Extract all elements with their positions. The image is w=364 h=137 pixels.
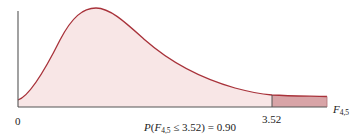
probability-annotation: P(F4,5 ≤ 3.52) = 0.90 bbox=[144, 122, 236, 135]
x-axis-label: F4,5 bbox=[333, 104, 349, 117]
x-tick-origin: 0 bbox=[15, 116, 21, 127]
x-tick-critical-value: 3.52 bbox=[262, 114, 281, 125]
prob-p: P bbox=[144, 121, 151, 133]
f-distribution-chart bbox=[0, 0, 364, 137]
prob-subscript: 4,5 bbox=[161, 126, 170, 135]
x-axis-subscript: 4,5 bbox=[340, 108, 349, 117]
prob-rest: ≤ 3.52) = 0.90 bbox=[171, 121, 236, 133]
x-axis-variable: F bbox=[333, 103, 340, 115]
cumulative-area-fill bbox=[18, 8, 272, 107]
